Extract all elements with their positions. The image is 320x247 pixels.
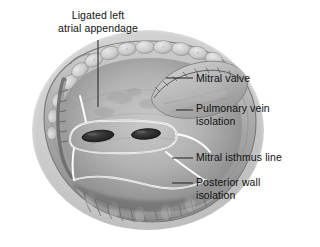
- label-mitral-isthmus-line: Mitral isthmus line: [196, 151, 320, 164]
- medical-illustration-figure: Ligated left atrial appendage Mitral val…: [0, 0, 320, 247]
- label-mitral-valve: Mitral valve: [196, 72, 316, 85]
- label-ligated-left-atrial-appendage: Ligated left atrial appendage: [36, 9, 160, 34]
- label-pulmonary-vein-isolation: Pulmonary vein isolation: [196, 102, 316, 127]
- label-posterior-wall-isolation: Posterior wall isolation: [196, 176, 316, 201]
